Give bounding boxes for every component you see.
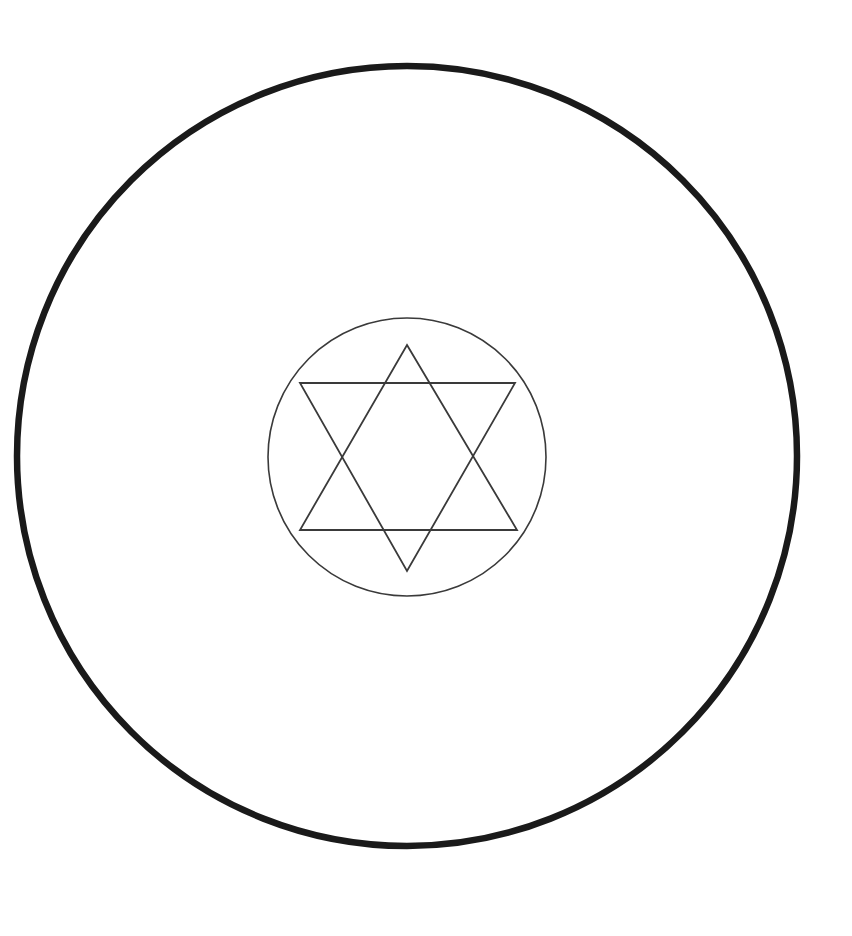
inner-circle xyxy=(268,318,546,596)
downward-triangle xyxy=(300,383,515,571)
figure-svg xyxy=(0,0,852,936)
inner-circle-group xyxy=(268,318,546,596)
outer-circle xyxy=(17,66,797,846)
outer-circle-group xyxy=(17,66,797,846)
hexagram-group xyxy=(300,345,517,571)
figure-canvas xyxy=(0,0,852,936)
